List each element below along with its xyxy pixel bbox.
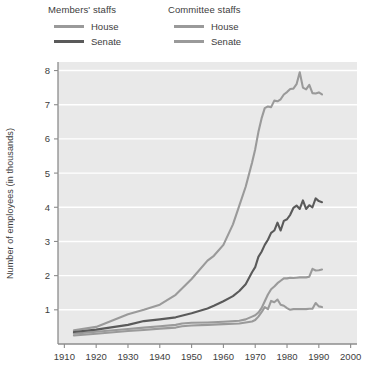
x-axis-tick-label: 1940: [149, 351, 170, 362]
legend-item-members-senate[interactable]: Senate: [54, 34, 121, 49]
legend-group-members-staffs: Members' staffs House Senate: [48, 4, 121, 49]
y-axis-title-text: Number of employees (in thousands): [5, 128, 15, 279]
x-axis-tick-label: 1910: [54, 351, 75, 362]
legend-swatch-line-icon: [54, 25, 84, 28]
plot-area: 1234567819101920193019401950196019701980…: [22, 58, 365, 380]
legend-swatch-line-icon: [174, 40, 204, 43]
chart-legend: Members' staffs House Senate Committee s…: [0, 0, 365, 58]
legend-item-label: Senate: [211, 36, 241, 47]
legend-item-committee-house[interactable]: House: [174, 19, 241, 34]
y-axis-tick-label: 4: [45, 202, 50, 213]
legend-group-title: Committee staffs: [168, 4, 241, 15]
line-chart-svg: 1234567819101920193019401950196019701980…: [22, 58, 365, 380]
legend-item-label: House: [211, 21, 238, 32]
legend-item-committee-senate[interactable]: Senate: [174, 34, 241, 49]
x-axis-tick-label: 1920: [86, 351, 107, 362]
y-axis-tick-label: 2: [45, 270, 50, 281]
x-axis-tick-label: 1970: [245, 351, 266, 362]
y-axis-tick-label: 5: [45, 168, 50, 179]
x-axis-tick-label: 1960: [213, 351, 234, 362]
legend-item-label: House: [91, 21, 118, 32]
y-axis-title: Number of employees (in thousands): [2, 58, 18, 348]
x-axis-tick-label: 1990: [308, 351, 329, 362]
legend-group-committee-staffs: Committee staffs House Senate: [168, 4, 241, 49]
legend-item-label: Senate: [91, 36, 121, 47]
legend-group-title: Members' staffs: [48, 4, 121, 15]
y-axis-tick-label: 3: [45, 236, 50, 247]
x-axis-tick-label: 1980: [276, 351, 297, 362]
y-axis-tick-label: 6: [45, 133, 50, 144]
x-axis-tick-label: 2000: [340, 351, 361, 362]
y-axis-tick-label: 7: [45, 99, 50, 110]
legend-swatch-line-icon: [174, 25, 204, 28]
legend-swatch-line-icon: [54, 40, 84, 43]
y-axis-tick-label: 1: [45, 304, 50, 315]
y-axis-tick-label: 8: [45, 65, 50, 76]
x-axis-tick-label: 1950: [181, 351, 202, 362]
chart-container: Members' staffs House Senate Committee s…: [0, 0, 365, 380]
legend-item-members-house[interactable]: House: [54, 19, 121, 34]
x-axis-tick-label: 1930: [117, 351, 138, 362]
